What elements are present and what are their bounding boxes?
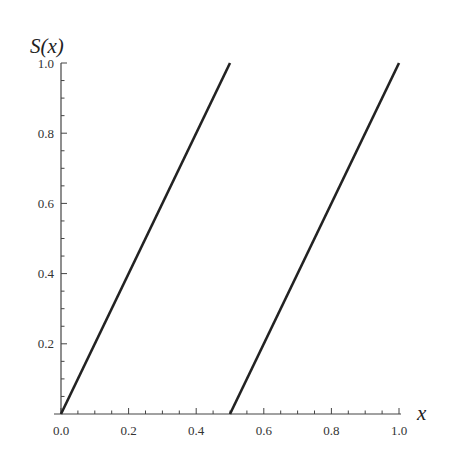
x-tick-label: 1.0	[391, 423, 407, 438]
series-group	[61, 63, 399, 414]
y-tick-label: 0.6	[38, 196, 55, 211]
chart: 0.00.20.40.60.81.00.20.40.60.81.0 S(x) x	[0, 0, 450, 451]
x-tick-label: 0.4	[188, 423, 205, 438]
axes: 0.00.20.40.60.81.00.20.40.60.81.0	[38, 56, 407, 439]
x-tick-label: 0.8	[323, 423, 339, 438]
y-tick-label: 0.8	[38, 126, 54, 141]
y-tick-label: 0.4	[38, 266, 55, 281]
x-tick-label: 0.6	[256, 423, 273, 438]
y-axis-title: S(x)	[30, 34, 64, 58]
line-segment-2	[230, 63, 399, 414]
x-tick-label: 0.0	[53, 423, 69, 438]
x-axis-title: x	[416, 401, 427, 425]
x-tick-label: 0.2	[120, 423, 136, 438]
y-tick-label: 0.2	[38, 336, 54, 351]
line-segment-1	[61, 63, 230, 414]
